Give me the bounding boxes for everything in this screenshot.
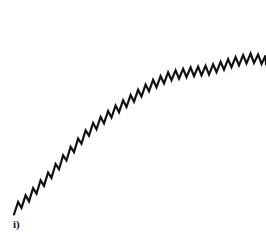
panel-label: i) (13, 218, 20, 230)
sawtooth-line (14, 54, 266, 215)
sawtooth-trend-plot (0, 0, 266, 248)
